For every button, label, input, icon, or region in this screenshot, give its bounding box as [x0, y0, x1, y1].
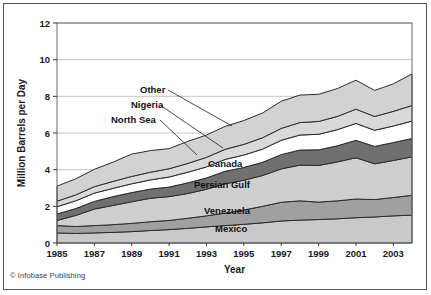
xtick-label: 2001 [345, 248, 367, 259]
stacked-area-chart: 0246810121985198719891991199319951997199… [0, 0, 431, 295]
xtick-label: 1993 [196, 248, 217, 259]
ytick-label: 0 [45, 238, 50, 249]
xtick-label: 1999 [308, 248, 329, 259]
series-label-mexico: Mexico [215, 223, 247, 234]
series-label-nigeria: Nigeria [131, 99, 164, 110]
series-label-venezuela: Venezuela [204, 205, 251, 216]
series-label-north-sea: North Sea [111, 114, 157, 125]
y-axis-title: Million Barrels per Day [16, 78, 27, 187]
xtick-label: 1997 [271, 248, 292, 259]
xtick-label: 1991 [159, 248, 181, 259]
xtick-label: 1989 [121, 248, 142, 259]
xtick-label: 1987 [84, 248, 105, 259]
xtick-label: 2003 [383, 248, 404, 259]
ytick-label: 8 [45, 91, 50, 102]
series-label-canada: Canada [208, 158, 243, 169]
x-axis-title: Year [224, 264, 245, 275]
ytick-label: 12 [39, 18, 50, 29]
copyright-credit: © Infobase Publishing [10, 271, 85, 280]
series-label-other: Other [140, 84, 166, 95]
xtick-label: 1985 [46, 248, 68, 259]
ytick-label: 4 [45, 164, 51, 175]
ytick-label: 6 [45, 128, 50, 139]
xtick-label: 1995 [233, 248, 255, 259]
ytick-label: 2 [45, 201, 50, 212]
series-label-persian-gulf: Persian Gulf [194, 179, 251, 190]
chart-figure: 0246810121985198719891991199319951997199… [0, 0, 431, 295]
ytick-label: 10 [39, 54, 50, 65]
